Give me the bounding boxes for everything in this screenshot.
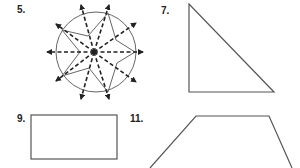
- figures-canvas: [0, 0, 300, 168]
- star-figure: [47, 5, 143, 99]
- trapezoid: [150, 116, 292, 168]
- symmetry-line-upper-left: [56, 24, 94, 52]
- right-triangle: [189, 4, 274, 92]
- rectangle: [31, 115, 117, 159]
- star-center: [92, 50, 97, 55]
- symmetry-line-lower-left: [56, 52, 94, 81]
- symmetry-line-lower-right: [94, 52, 136, 82]
